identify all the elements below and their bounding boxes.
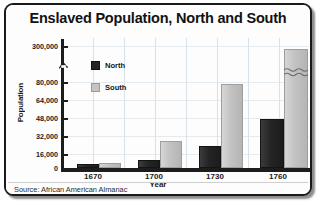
chart-frame: Enslaved Population, North and South Pop… — [4, 3, 312, 196]
y-axis-break-icon — [58, 57, 69, 67]
x-tick-label-1760: 1760 — [269, 172, 287, 181]
bar-north-1700 — [138, 160, 160, 168]
bar-axis-break-mark — [284, 64, 308, 75]
y-tick-label-300000: 300,000 — [32, 42, 58, 51]
legend-item-south: South — [91, 79, 127, 95]
y-tick-48000 — [61, 118, 68, 120]
y-tick-label-48000: 48,000 — [36, 114, 58, 123]
gridline — [248, 38, 249, 168]
chart-inner: Enslaved Population, North and South Pop… — [6, 5, 310, 194]
bar-south-1730 — [221, 84, 243, 168]
x-tick-label-1730: 1730 — [206, 172, 224, 181]
gridline — [186, 38, 187, 168]
y-axis-tick-labels: 300,000 80,000 64,000 48,000 32,000 16,0… — [6, 5, 58, 194]
y-tick-label-32000: 32,000 — [36, 132, 58, 141]
y-tick-300000 — [61, 46, 68, 48]
bar-south-1700 — [160, 141, 182, 168]
x-tick-label-1670: 1670 — [84, 172, 102, 181]
legend-label-south: South — [105, 83, 127, 92]
y-tick-80000 — [61, 82, 68, 84]
y-tick-label-0: 0 — [54, 164, 58, 173]
chart-legend: North South — [91, 57, 127, 95]
y-tick-label-64000: 64,000 — [36, 96, 58, 105]
y-tick-32000 — [61, 136, 68, 138]
bar-north-1760 — [260, 119, 284, 168]
y-tick-16000 — [61, 154, 68, 156]
y-tick-label-16000: 16,000 — [36, 150, 58, 159]
legend-swatch-south-icon — [91, 83, 100, 92]
bar-south-1760 — [284, 49, 308, 168]
x-tick-label-1700: 1700 — [145, 172, 163, 181]
source-divider — [8, 182, 308, 183]
source-note: Source: African American Almanac — [14, 185, 127, 194]
y-tick-label-80000: 80,000 — [36, 78, 58, 87]
legend-label-north: North — [105, 61, 125, 70]
bar-north-1730 — [199, 146, 221, 168]
legend-item-north: North — [91, 57, 127, 73]
gridline — [155, 38, 156, 168]
y-tick-64000 — [61, 100, 68, 102]
legend-swatch-north-icon — [91, 61, 100, 70]
